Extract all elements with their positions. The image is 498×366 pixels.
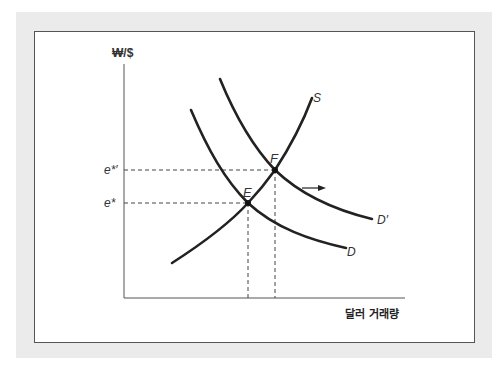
curve-label-d: D bbox=[347, 245, 356, 259]
y-axis-label: ₩/$ bbox=[112, 46, 134, 60]
equilibrium-point-e bbox=[245, 200, 251, 206]
curve-label-d-prime: D′ bbox=[377, 213, 389, 227]
point-label-f: F bbox=[270, 151, 279, 166]
price-label-e-star-prime: e*′ bbox=[104, 163, 118, 177]
equilibrium-point-f bbox=[272, 167, 278, 173]
supply-demand-diagram: ₩/$ e*′ e* E F S D D′ 달러 거래량 bbox=[0, 0, 498, 366]
point-label-e: E bbox=[243, 185, 252, 200]
price-label-e-star: e* bbox=[104, 196, 116, 210]
x-axis-label: 달러 거래량 bbox=[345, 307, 399, 321]
curve-label-s: S bbox=[313, 91, 321, 105]
shift-arrow-icon bbox=[318, 185, 326, 191]
